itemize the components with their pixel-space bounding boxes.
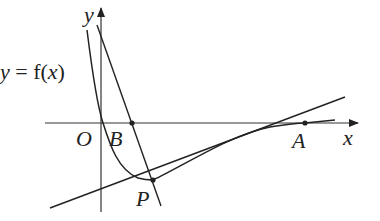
point-a [302, 120, 307, 125]
point-b-label: B [109, 126, 122, 151]
function-label-arg: x [47, 59, 58, 84]
function-curve [87, 30, 335, 180]
point-b [129, 120, 134, 125]
function-diagram: y x O B P A y = f(x) [0, 0, 380, 221]
x-axis-label: x [342, 125, 353, 150]
function-label-close: ) [58, 59, 65, 84]
point-a-label: A [290, 128, 306, 153]
origin-label: O [76, 126, 92, 151]
point-p [150, 177, 155, 182]
function-label-var: y [0, 59, 10, 84]
function-label-eq: = f( [10, 59, 48, 84]
function-label: y = f(x) [0, 59, 65, 84]
point-p-label: P [135, 186, 149, 211]
y-axis-label: y [82, 2, 94, 27]
